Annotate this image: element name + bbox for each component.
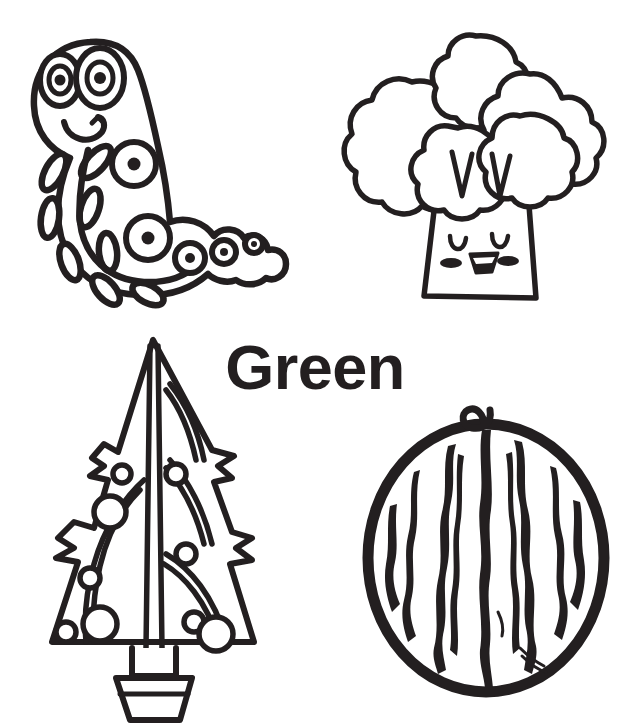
coloring-page: Green (0, 0, 627, 728)
page-title-green: Green (210, 336, 420, 398)
caterpillar-illustration (18, 22, 298, 312)
caterpillar-eyes (40, 48, 124, 108)
watermelon-illustration (352, 398, 620, 700)
broccoli-illustration (340, 20, 612, 312)
